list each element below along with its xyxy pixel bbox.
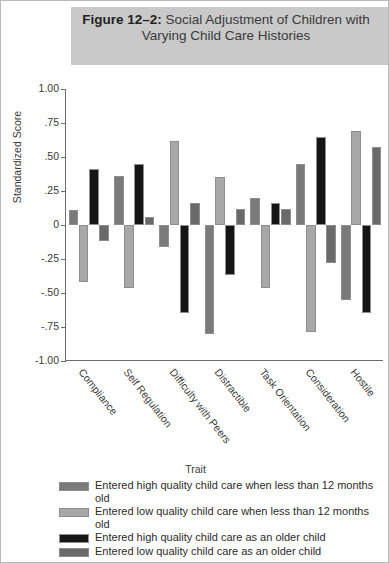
legend-swatch	[59, 482, 89, 491]
bar	[69, 210, 79, 225]
bar	[326, 225, 336, 263]
x-axis-label: Trait	[1, 463, 389, 475]
y-axis-tick-mark	[61, 225, 66, 226]
bar	[250, 198, 260, 225]
bar	[180, 225, 190, 313]
bar	[145, 217, 155, 225]
bar	[225, 225, 235, 275]
bar	[351, 131, 361, 225]
legend-swatch	[59, 508, 89, 517]
legend-label: Entered low quality child care when less…	[95, 505, 379, 530]
legend-item: Entered low quality child care as an old…	[59, 545, 379, 558]
bar	[372, 147, 382, 225]
figure-title: Figure 12–2: Social Adjustment of Childr…	[71, 12, 381, 44]
y-axis-tick-mark	[61, 89, 66, 90]
y-axis-tick-mark	[61, 157, 66, 158]
x-axis-tick-label: Consideration	[303, 366, 352, 424]
legend-item: Entered high quality child care when les…	[59, 479, 379, 504]
y-axis-tick-mark	[61, 361, 66, 362]
y-axis-tick-mark	[61, 191, 66, 192]
bar	[89, 169, 99, 225]
bar	[316, 137, 326, 225]
bar	[362, 225, 372, 313]
bar	[271, 203, 281, 225]
bar	[236, 209, 246, 225]
bar	[190, 203, 200, 225]
bar	[134, 164, 144, 225]
bar	[215, 177, 225, 225]
figure-container: Figure 12–2: Social Adjustment of Childr…	[0, 0, 389, 563]
y-axis-tick-label: .50	[1, 150, 59, 162]
plot-area	[65, 89, 383, 361]
legend-label: Entered high quality child care when les…	[95, 479, 379, 504]
y-axis-tick-label: .75	[1, 116, 59, 128]
y-axis-tick-label: -.25	[1, 252, 59, 264]
bar	[170, 141, 180, 225]
figure-number: Figure 12–2:	[82, 12, 162, 27]
legend-swatch	[59, 534, 89, 543]
y-axis-tick-mark	[61, 327, 66, 328]
bar	[99, 225, 109, 241]
bar	[124, 225, 134, 288]
bar	[79, 225, 89, 282]
legend-label: Entered high quality child care as an ol…	[95, 531, 326, 544]
y-axis-tick-mark	[61, 123, 66, 124]
bar	[205, 225, 215, 334]
y-axis-tick-label: -.75	[1, 320, 59, 332]
legend: Entered high quality child care when les…	[59, 479, 379, 558]
bar-group-container	[66, 89, 383, 360]
legend-item: Entered low quality child care when less…	[59, 505, 379, 530]
x-axis-tick-label: Self Regulation	[122, 366, 175, 430]
x-axis-tick-label: Compliance	[76, 366, 120, 417]
y-axis-tick-label: -1.00	[1, 354, 59, 366]
legend-item: Entered high quality child care as an ol…	[59, 531, 379, 544]
bar	[114, 176, 124, 225]
bar	[159, 225, 169, 247]
y-axis-tick-label: 0	[1, 218, 59, 230]
legend-label: Entered low quality child care as an old…	[95, 545, 321, 558]
y-axis-tick-mark	[61, 293, 66, 294]
x-axis-tick-label: Distractible	[213, 366, 254, 414]
y-axis-tick-label: .25	[1, 184, 59, 196]
bar	[341, 225, 351, 300]
legend-swatch	[59, 548, 89, 557]
bar	[306, 225, 316, 332]
figure-title-text: Social Adjustment of Children with Varyi…	[142, 12, 370, 43]
bar	[281, 209, 291, 225]
x-axis-tick-label: Hostile	[349, 366, 378, 399]
y-axis-tick-mark	[61, 259, 66, 260]
bar	[296, 164, 306, 225]
bar	[261, 225, 271, 288]
title-banner: Figure 12–2: Social Adjustment of Childr…	[71, 7, 389, 65]
y-axis-tick-label: -.50	[1, 286, 59, 298]
y-axis-tick-label: 1.00	[1, 82, 59, 94]
